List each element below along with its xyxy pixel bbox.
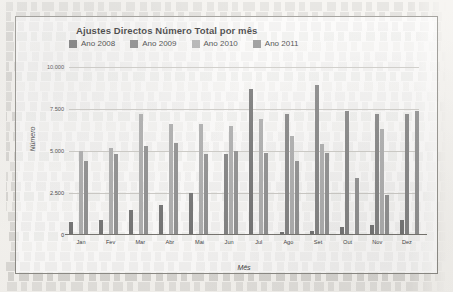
- y-axis-tick-label: 0: [61, 232, 64, 238]
- bar[interactable]: [109, 148, 113, 235]
- bar-group: [370, 67, 389, 235]
- x-axis-tick-label: Jun: [217, 239, 241, 245]
- bar[interactable]: [139, 114, 143, 235]
- bar[interactable]: [84, 161, 88, 235]
- background-text-line: [6, 2, 447, 11]
- bar[interactable]: [290, 136, 294, 235]
- bar[interactable]: [79, 151, 83, 235]
- bar[interactable]: [375, 114, 379, 235]
- bar[interactable]: [224, 154, 228, 235]
- x-axis-tick-label: Fev: [99, 239, 123, 245]
- bar[interactable]: [345, 111, 349, 235]
- bar[interactable]: [129, 210, 133, 235]
- bar-group: [129, 67, 148, 235]
- x-axis-tick-label: Mai: [188, 239, 212, 245]
- x-axis-line: [65, 234, 427, 235]
- bar[interactable]: [159, 205, 163, 235]
- bar-group: [249, 67, 268, 235]
- y-axis-tick-label: 10.000: [47, 64, 64, 70]
- bar[interactable]: [415, 111, 419, 235]
- legend-label: Ano 2010: [204, 39, 238, 48]
- x-axis-tick-label: Nov: [365, 239, 389, 245]
- bar[interactable]: [385, 195, 389, 235]
- plot-area: 02.5005.0007.50010.000: [69, 67, 419, 235]
- legend-swatch-icon: [69, 40, 77, 48]
- x-axis-tick-label: Out: [336, 239, 360, 245]
- bar[interactable]: [234, 151, 238, 235]
- chart-title: Ajustes Directos Número Total por mês: [76, 25, 257, 36]
- x-axis-tick-label: Ago: [276, 239, 300, 245]
- legend-swatch-icon: [130, 40, 138, 48]
- y-axis-title: Número: [29, 127, 36, 152]
- bar[interactable]: [189, 193, 193, 235]
- legend-label: Ano 2009: [142, 39, 176, 48]
- x-axis-tick-label: Jan: [69, 239, 93, 245]
- bar-group: [280, 67, 299, 235]
- legend-item[interactable]: Ano 2011: [253, 39, 299, 48]
- bar[interactable]: [174, 143, 178, 235]
- background-text-line: [6, 282, 447, 291]
- bar[interactable]: [99, 220, 103, 235]
- bar[interactable]: [295, 161, 299, 235]
- bar[interactable]: [400, 220, 404, 235]
- gridline: [69, 235, 419, 236]
- bar-group: [69, 67, 88, 235]
- bar-group: [310, 67, 329, 235]
- bar[interactable]: [249, 89, 253, 235]
- bar[interactable]: [405, 114, 409, 235]
- chart-frame: Ajustes Directos Número Total por mês An…: [15, 16, 438, 274]
- legend-swatch-icon: [253, 40, 261, 48]
- legend-item[interactable]: Ano 2009: [130, 39, 176, 48]
- bar[interactable]: [320, 144, 324, 235]
- legend-item[interactable]: Ano 2010: [192, 39, 238, 48]
- chart-legend: Ano 2008Ano 2009Ano 2010Ano 2011: [69, 39, 298, 48]
- bar[interactable]: [114, 154, 118, 235]
- bar[interactable]: [325, 153, 329, 235]
- bar-group: [189, 67, 208, 235]
- legend-label: Ano 2008: [81, 39, 115, 48]
- legend-label: Ano 2011: [265, 39, 299, 48]
- bar[interactable]: [204, 154, 208, 235]
- bar[interactable]: [285, 114, 289, 235]
- x-axis-tick-label: Jul: [247, 239, 271, 245]
- bar-group: [340, 67, 359, 235]
- x-axis-title: Mês: [237, 264, 250, 271]
- bar[interactable]: [259, 119, 263, 235]
- bar-group: [99, 67, 118, 235]
- bar[interactable]: [355, 178, 359, 235]
- x-axis-tick-label: Set: [306, 239, 330, 245]
- bar[interactable]: [380, 129, 384, 235]
- bar-groups: [69, 67, 419, 235]
- bar[interactable]: [264, 153, 268, 235]
- x-axis-tick-labels: JanFevMarAbrMaiJunJulAgoSetOutNovDez: [69, 239, 419, 245]
- y-axis-tick-label: 7.500: [50, 106, 64, 112]
- bar-group: [400, 67, 419, 235]
- bar-group: [219, 67, 238, 235]
- legend-swatch-icon: [192, 40, 200, 48]
- y-axis-tick-label: 5.000: [50, 148, 64, 154]
- x-axis-tick-label: Mar: [128, 239, 152, 245]
- legend-item[interactable]: Ano 2008: [69, 39, 115, 48]
- bar[interactable]: [199, 124, 203, 235]
- bar[interactable]: [69, 222, 73, 235]
- bar[interactable]: [315, 85, 319, 235]
- x-axis-tick-label: Dez: [395, 239, 419, 245]
- bar[interactable]: [144, 146, 148, 235]
- y-axis-tick-label: 2.500: [50, 190, 64, 196]
- x-axis-tick-label: Abr: [158, 239, 182, 245]
- bar[interactable]: [169, 124, 173, 235]
- bar[interactable]: [229, 126, 233, 235]
- bar-group: [159, 67, 178, 235]
